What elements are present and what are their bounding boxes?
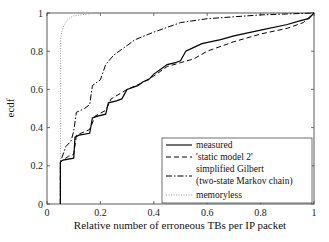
y-tick-label: 0.2	[31, 160, 44, 171]
legend-label-gilbert-line1: simplified Gilbert	[196, 164, 264, 174]
legend-label-memoryless: memoryless	[196, 190, 242, 200]
legend-label-gilbert-line2: (two-state Markov chain)	[196, 176, 293, 187]
x-tick-label: 1	[312, 207, 317, 218]
y-tick-label: 0.6	[31, 84, 44, 95]
legend-label-static-model-2: 'static model 2'	[196, 152, 253, 162]
x-tick-label: 0.4	[148, 207, 161, 218]
x-tick-label: 0.2	[94, 207, 107, 218]
x-axis-label: Relative number of erroneous TBs per IP …	[74, 219, 286, 231]
ecdf-chart: 00.20.40.60.8100.20.40.60.81 Relative nu…	[0, 0, 329, 242]
legend-label-measured: measured	[196, 140, 233, 150]
x-tick-label: 0	[45, 207, 50, 218]
y-tick-label: 1	[38, 8, 43, 19]
x-tick-label: 0.8	[254, 207, 267, 218]
y-axis-label: ecdf	[4, 98, 16, 117]
legend: measured 'static model 2' simplified Gil…	[162, 138, 312, 203]
y-tick-label: 0.4	[31, 122, 44, 133]
y-tick-label: 0.8	[31, 46, 44, 57]
y-tick-label: 0	[38, 199, 43, 210]
x-tick-label: 0.6	[201, 207, 214, 218]
